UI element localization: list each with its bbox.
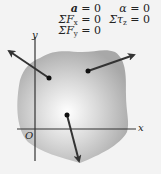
origin-label: O [25, 130, 33, 141]
y-axis-label: y [32, 29, 38, 40]
x-axis-label: x [138, 122, 144, 133]
equation-sum-torque: Στz = 0 [109, 15, 150, 28]
equation-sum-fy: ΣFy = 0 [58, 26, 101, 39]
